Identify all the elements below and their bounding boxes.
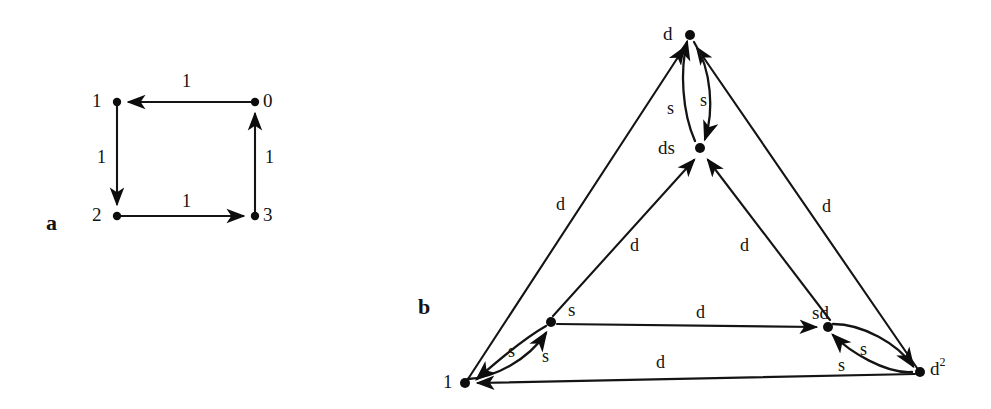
edge-d2-to-d <box>697 48 917 368</box>
edge-label-d2-1: d <box>656 353 665 371</box>
edge-label-0-1: 1 <box>182 72 191 90</box>
edge-label-d2-sd: s <box>838 356 845 374</box>
vertex-one <box>460 378 470 388</box>
edge-s-to-sd <box>557 324 816 327</box>
edge-d2-to-ds <box>708 160 830 320</box>
node-label-ds: ds <box>658 138 675 157</box>
node-label-one: 1 <box>443 372 453 391</box>
edge-label-d2-ds: d <box>740 236 749 254</box>
figure-container: a b 1 0 2 3 1 1 1 1 d ds s sd 1 d2 d d d… <box>0 0 991 409</box>
panel-b-edges <box>468 42 917 383</box>
edge-label-ds-d: s <box>667 99 674 117</box>
node-label-0: 0 <box>263 91 273 110</box>
vertex-d <box>685 30 695 40</box>
edge-label-s-1: s <box>508 342 515 360</box>
vertex-ds <box>695 143 705 153</box>
edge-1-to-ds <box>553 160 694 316</box>
panel-label-b: b <box>418 296 430 318</box>
vertex-d-squared <box>915 367 925 377</box>
vertex-2 <box>113 212 121 220</box>
node-label-1: 1 <box>92 91 102 110</box>
vertex-3 <box>251 212 259 220</box>
edge-d2-to-1 <box>478 374 915 383</box>
node-label-3: 3 <box>263 205 273 224</box>
edge-label-1-d: d <box>556 195 565 213</box>
edge-label-1-2: 1 <box>97 148 106 166</box>
edge-label-d2-d: d <box>822 197 831 215</box>
node-label-d-squared-base: d <box>930 358 940 379</box>
node-label-s: s <box>568 300 575 319</box>
node-label-sd: sd <box>812 303 829 322</box>
edge-label-3-0: 1 <box>265 148 274 166</box>
node-label-d-squared-exponent: 2 <box>940 355 946 369</box>
edge-ds-to-d <box>683 42 695 141</box>
vertex-0 <box>251 98 259 106</box>
edge-label-s-sd: d <box>696 303 705 321</box>
node-label-d: d <box>663 24 673 43</box>
edge-label-1-ds: d <box>630 236 639 254</box>
vertex-1 <box>113 98 121 106</box>
panel-label-a: a <box>46 212 57 234</box>
edge-1-to-s <box>468 333 546 379</box>
vertex-sd <box>823 322 833 332</box>
panel-b-vertices <box>460 30 925 388</box>
vertex-s <box>546 317 556 327</box>
edge-label-2-3: 1 <box>182 192 191 210</box>
edge-label-d-ds: s <box>700 91 707 109</box>
edge-label-sd-d2: s <box>860 340 867 358</box>
node-label-d-squared: d2 <box>930 358 946 378</box>
graph-canvas <box>0 0 991 409</box>
node-label-2: 2 <box>92 205 102 224</box>
edge-1-to-d <box>468 48 684 379</box>
edge-label-1-s: s <box>542 347 549 365</box>
